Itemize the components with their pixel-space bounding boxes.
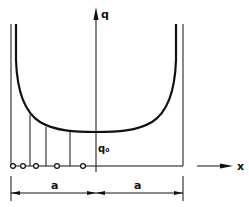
x-axis-label: x [237, 160, 244, 173]
marker-circle-icon [11, 164, 16, 169]
x-axis-arrowhead-icon [220, 164, 233, 169]
q0-label: q₀ [98, 143, 110, 154]
q-axis-label: q [101, 8, 109, 21]
marker-circle-icon [55, 164, 60, 169]
dimension-label-right: a [134, 179, 141, 192]
q-axis-arrowhead-icon [94, 7, 99, 20]
dimension-label-left: a [51, 179, 58, 192]
dimension-arrowhead-icon [96, 191, 105, 195]
dimension-arrowhead-icon [11, 191, 20, 195]
dimension-arrowhead-icon [174, 191, 183, 195]
dimension-arrowhead-icon [87, 191, 96, 195]
marker-circle-icon [34, 164, 39, 169]
pressure-diagram: q q₀ x a a [0, 0, 249, 207]
marker-circle-icon [81, 164, 86, 169]
marker-circle-icon [21, 164, 26, 169]
